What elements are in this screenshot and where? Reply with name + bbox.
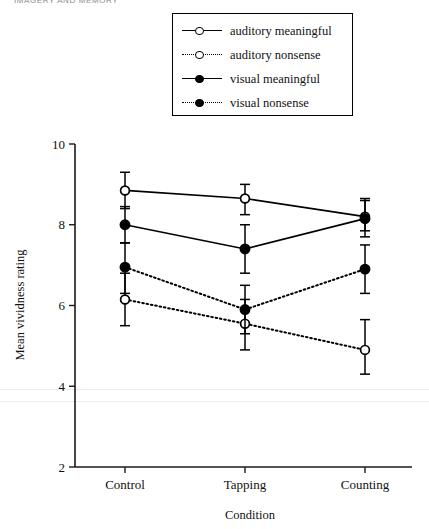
x-tick-label: Control [105, 477, 145, 492]
data-point [240, 305, 249, 314]
y-tick-label: 6 [59, 298, 66, 313]
y-axis: 246810 [52, 137, 75, 475]
y-tick-label: 10 [52, 137, 65, 152]
y-tick-label: 4 [59, 379, 66, 394]
y-tick-label: 8 [59, 217, 66, 232]
data-point [121, 186, 130, 195]
y-axis-title: Mean vividness rating [13, 249, 27, 361]
series-auditory-meaningful [120, 172, 370, 231]
data-point [360, 265, 369, 274]
x-axis-title: Condition [225, 508, 276, 522]
x-tick-label: Counting [341, 477, 390, 492]
y-tick-label: 2 [59, 460, 66, 475]
data-point [361, 346, 370, 355]
data-point [120, 220, 129, 229]
chart-canvas: 246810 ControlTappingCounting Mean vivid… [0, 0, 429, 529]
data-point [121, 295, 130, 304]
x-axis: ControlTappingCounting [75, 467, 412, 492]
x-tick-label: Tapping [224, 477, 267, 492]
data-point [120, 263, 129, 272]
line-chart: 246810 ControlTappingCounting Mean vivid… [0, 0, 429, 529]
data-point [360, 214, 369, 223]
data-point [241, 194, 250, 203]
data-point [240, 244, 249, 253]
data-series-group [120, 172, 370, 374]
